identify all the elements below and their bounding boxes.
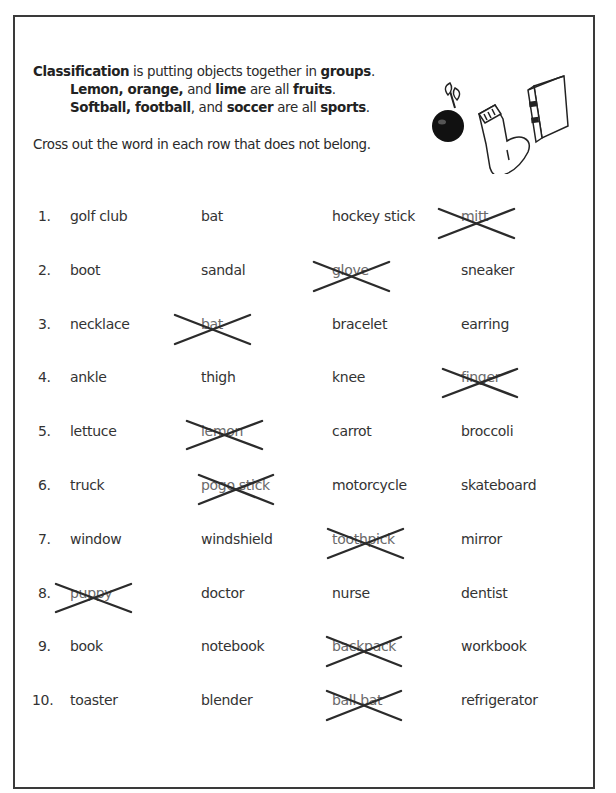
row-number: 10. [32, 692, 58, 708]
crossed-word[interactable]: mitt [461, 208, 488, 224]
text-span: are all [246, 82, 293, 97]
word-option[interactable]: mirror [461, 531, 502, 547]
word-option[interactable]: hockey stick [332, 208, 415, 224]
word-option[interactable]: truck [70, 477, 104, 493]
word-option[interactable]: book [70, 638, 103, 654]
example-sports: Softball, football, and soccer are all s… [70, 100, 370, 115]
text-span: . [366, 100, 370, 115]
word-option[interactable]: thigh [201, 369, 236, 385]
word-option[interactable]: windshield [201, 531, 273, 547]
question-row: 2.bootsandalglovesneaker [0, 262, 616, 288]
question-row: 10.toasterblenderball batrefrigerator [0, 692, 616, 718]
word-option[interactable]: bat [201, 208, 223, 224]
crossed-word[interactable]: finger [461, 369, 500, 385]
row-number: 4. [38, 369, 64, 385]
question-row: 7.windowwindshieldtoothpickmirror [0, 531, 616, 557]
bold-span: sports [320, 100, 366, 115]
word-option[interactable]: nurse [332, 585, 370, 601]
crossed-word[interactable]: bat [201, 316, 223, 332]
word-option[interactable]: necklace [70, 316, 130, 332]
word-option[interactable]: notebook [201, 638, 264, 654]
apple-icon [432, 83, 464, 142]
bold-span: soccer [227, 100, 274, 115]
question-row: 4.anklethighkneefinger [0, 369, 616, 395]
crossed-word[interactable]: glove [332, 262, 369, 278]
crossed-word[interactable]: ball bat [332, 692, 382, 708]
word-option[interactable]: window [70, 531, 121, 547]
question-row: 5.lettucelemoncarrotbroccoli [0, 423, 616, 449]
text-span: are all [273, 100, 320, 115]
example-fruits: Lemon, orange, and lime are all fruits. [70, 82, 336, 97]
row-number: 1. [38, 208, 64, 224]
row-number: 7. [38, 531, 64, 547]
row-number: 3. [38, 316, 64, 332]
word-option[interactable]: bracelet [332, 316, 387, 332]
text-span: and [183, 82, 215, 97]
bold-span: lime [215, 82, 246, 97]
crossed-word[interactable]: backpack [332, 638, 396, 654]
word-option[interactable]: doctor [201, 585, 244, 601]
word-option[interactable]: ankle [70, 369, 107, 385]
word-option[interactable]: earring [461, 316, 509, 332]
instruction: Cross out the word in each row that does… [33, 137, 371, 152]
word-option[interactable]: motorcycle [332, 477, 407, 493]
word-option[interactable]: knee [332, 369, 365, 385]
book-icon [528, 76, 568, 142]
illustrations [424, 64, 594, 174]
bold-span: Lemon, orange, [70, 82, 183, 97]
question-row: 1.golf clubbathockey stickmitt [0, 208, 616, 234]
text-span: is putting objects together in [129, 64, 320, 79]
word-option[interactable]: refrigerator [461, 692, 538, 708]
word-option[interactable]: lettuce [70, 423, 117, 439]
question-row: 9.booknotebookbackpackworkbook [0, 638, 616, 664]
word-option[interactable]: sneaker [461, 262, 514, 278]
term-groups: groups [321, 64, 371, 79]
row-number: 9. [38, 638, 64, 654]
crossed-word[interactable]: pogo stick [201, 477, 270, 493]
word-option[interactable]: dentist [461, 585, 507, 601]
sock-icon [479, 105, 529, 174]
text-span: , and [191, 100, 227, 115]
question-row: 3.necklacebatbraceletearring [0, 316, 616, 342]
word-option[interactable]: workbook [461, 638, 527, 654]
crossed-word[interactable]: lemon [201, 423, 243, 439]
question-row: 6.truckpogo stickmotorcycleskateboard [0, 477, 616, 503]
term-classification: Classification [33, 64, 129, 79]
text-span: . [371, 64, 375, 79]
definition-line: Classification is putting objects togeth… [33, 64, 375, 79]
word-option[interactable]: blender [201, 692, 252, 708]
word-option[interactable]: broccoli [461, 423, 513, 439]
word-option[interactable]: toaster [70, 692, 118, 708]
word-option[interactable]: golf club [70, 208, 127, 224]
row-number: 2. [38, 262, 64, 278]
row-number: 5. [38, 423, 64, 439]
crossed-word[interactable]: toothpick [332, 531, 395, 547]
word-option[interactable]: sandal [201, 262, 245, 278]
bold-span: Softball, football [70, 100, 191, 115]
bold-span: fruits [293, 82, 332, 97]
crossed-word[interactable]: puppy [70, 585, 112, 601]
question-row: 8.puppydoctornursedentist [0, 585, 616, 611]
word-option[interactable]: boot [70, 262, 100, 278]
word-option[interactable]: skateboard [461, 477, 536, 493]
row-number: 6. [38, 477, 64, 493]
text-span: . [332, 82, 336, 97]
row-number: 8. [38, 585, 64, 601]
word-option[interactable]: carrot [332, 423, 372, 439]
